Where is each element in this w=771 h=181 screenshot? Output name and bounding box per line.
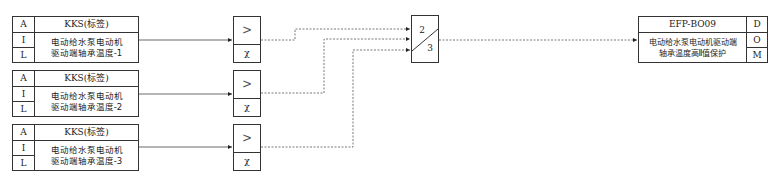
greater-than-symbol: > [234, 125, 260, 152]
output-description: 电动给水泵电动机驱动端 轴承温度高Ⅱ值保护 [639, 32, 746, 62]
voter-count-total: 3 [424, 42, 436, 54]
signal-description: 电动给水泵电动机 驱动端轴承温度-1 [34, 32, 138, 62]
tag-label: KKS(标签) [34, 17, 138, 32]
input-block-3: A I L KKS(标签) 电动给水泵电动机 驱动端轴承温度-3 [12, 124, 139, 171]
col-i: I [13, 86, 34, 101]
comparator-block-2: > χ [233, 70, 261, 117]
greater-than-symbol: > [234, 71, 260, 98]
voter-slash-icon [412, 16, 438, 62]
col-d: D [746, 17, 767, 32]
col-m: M [746, 47, 767, 62]
comparator-block-1: > χ [233, 16, 261, 63]
setpoint-symbol: χ [234, 44, 260, 62]
input-block-1: A I L KKS(标签) 电动给水泵电动机 驱动端轴承温度-1 [12, 16, 139, 63]
col-a: A [13, 17, 34, 32]
col-i: I [13, 140, 34, 155]
col-a: A [13, 71, 34, 86]
input-block-2: A I L KKS(标签) 电动给水泵电动机 驱动端轴承温度-2 [12, 70, 139, 117]
col-l: L [13, 47, 34, 62]
output-tag: EFP-BO09 [639, 17, 746, 32]
setpoint-symbol: χ [234, 98, 260, 116]
col-i: I [13, 32, 34, 47]
voter-2oo3-block: 2 3 [411, 15, 439, 63]
comparator-block-3: > χ [233, 124, 261, 171]
output-block: EFP-BO09 电动给水泵电动机驱动端 轴承温度高Ⅱ值保护 D O M [638, 16, 768, 63]
col-o: O [746, 32, 767, 47]
signal-description: 电动给水泵电动机 驱动端轴承温度-3 [34, 140, 138, 170]
tag-label: KKS(标签) [34, 125, 138, 140]
greater-than-symbol: > [234, 17, 260, 44]
col-l: L [13, 101, 34, 116]
voter-count-required: 2 [416, 24, 428, 36]
col-a: A [13, 125, 34, 140]
tag-label: KKS(标签) [34, 71, 138, 86]
setpoint-symbol: χ [234, 152, 260, 170]
col-l: L [13, 155, 34, 170]
signal-description: 电动给水泵电动机 驱动端轴承温度-2 [34, 86, 138, 116]
